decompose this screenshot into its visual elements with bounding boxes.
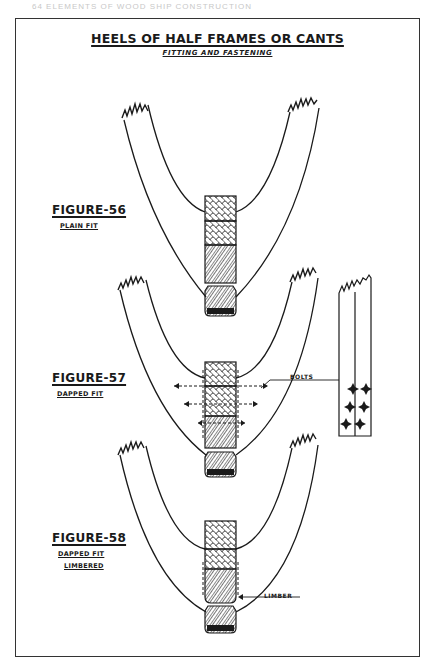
technical-drawing (0, 0, 436, 669)
bolt-pattern-panel (339, 275, 372, 436)
figure-56-drawing (122, 98, 319, 316)
